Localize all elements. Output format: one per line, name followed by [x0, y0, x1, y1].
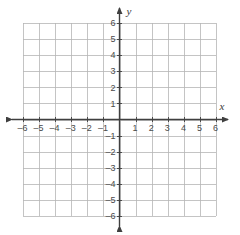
y-tick-label: 1 [110, 99, 115, 109]
x-axis-label: x [219, 100, 225, 112]
y-tick-label: 2 [110, 83, 115, 93]
x-tick-label: 6 [213, 123, 218, 133]
cartesian-grid-svg: –6–5–4–3–2–1123456 654321–1–2–3–4–5–6 x … [0, 0, 240, 235]
y-axis-label: y [126, 5, 132, 17]
x-tick-label: 3 [165, 123, 170, 133]
y-tick-label: –3 [105, 163, 115, 173]
x-tick-label: –4 [50, 123, 60, 133]
y-tick-label: –5 [105, 195, 115, 205]
x-tick-label: 4 [181, 123, 186, 133]
x-tick-label: –6 [17, 123, 27, 133]
x-tick-label: 1 [133, 123, 138, 133]
x-tick-label: –5 [33, 123, 43, 133]
y-tick-label: 5 [110, 34, 115, 44]
y-tick-label: –1 [105, 131, 115, 141]
y-tick-label: 6 [110, 18, 115, 28]
x-tick-label: 2 [149, 123, 154, 133]
y-tick-label: 3 [110, 66, 115, 76]
y-tick-label: –6 [105, 211, 115, 221]
x-tick-label: –2 [82, 123, 92, 133]
y-tick-label: –4 [105, 179, 115, 189]
coordinate-plane-figure: –6–5–4–3–2–1123456 654321–1–2–3–4–5–6 x … [0, 0, 240, 235]
y-tick-label: 4 [110, 50, 115, 60]
y-tick-label: –2 [105, 147, 115, 157]
x-tick-label: 5 [197, 123, 202, 133]
x-tick-label: –3 [66, 123, 76, 133]
